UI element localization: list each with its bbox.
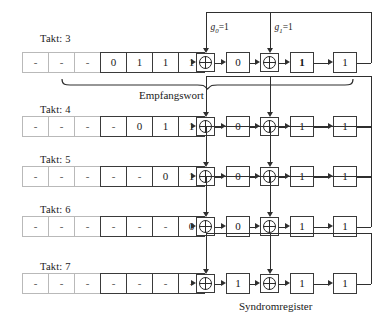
xor-cross-vertical-icon bbox=[205, 277, 206, 290]
empfangswort-brace bbox=[60, 76, 355, 88]
arrow-into-reg0 bbox=[221, 280, 226, 286]
takt-row: Takt: 7-------111 bbox=[0, 0, 379, 333]
wire-tap-g0-drop bbox=[206, 233, 207, 269]
input-cell: - bbox=[100, 273, 127, 294]
arrow-into-reg2 bbox=[328, 280, 333, 286]
xor-gate-1 bbox=[260, 274, 279, 293]
xor-cross-vertical-icon bbox=[269, 277, 270, 290]
shift-register-diagram: Takt: 3---0111011g0=1g1=1Takt: 4----0110… bbox=[0, 0, 379, 333]
syndrome-register-cell: 1 bbox=[226, 273, 250, 294]
arrow-into-xor0 bbox=[191, 280, 196, 286]
input-cell: - bbox=[48, 273, 75, 294]
arrow-into-reg1 bbox=[285, 280, 290, 286]
arrow-into-xor1-top bbox=[267, 269, 273, 274]
takt-label: Takt: 7 bbox=[40, 261, 71, 272]
input-cell: - bbox=[126, 273, 153, 294]
arrow-into-xor1 bbox=[255, 280, 260, 286]
wire-reg2-to-feedback bbox=[357, 284, 371, 285]
xor-gate-0 bbox=[196, 274, 215, 293]
wire-reg1-to-reg2 bbox=[314, 284, 328, 285]
input-cell: - bbox=[22, 273, 49, 294]
arrow-into-xor0-top bbox=[203, 269, 209, 274]
input-cell: - bbox=[74, 273, 101, 294]
wire-tap-g1-drop bbox=[270, 233, 271, 269]
syndrome-register-cell: 1 bbox=[290, 273, 314, 294]
syndrome-register-cell: 1 bbox=[333, 273, 357, 294]
wire-feedback-bus bbox=[206, 233, 372, 234]
wire-feedback-right-riser bbox=[371, 233, 372, 284]
input-cell: - bbox=[152, 273, 179, 294]
empfangswort-caption: Empfangswort bbox=[139, 89, 204, 101]
syndromregister-caption: Syndromregister bbox=[239, 300, 312, 312]
